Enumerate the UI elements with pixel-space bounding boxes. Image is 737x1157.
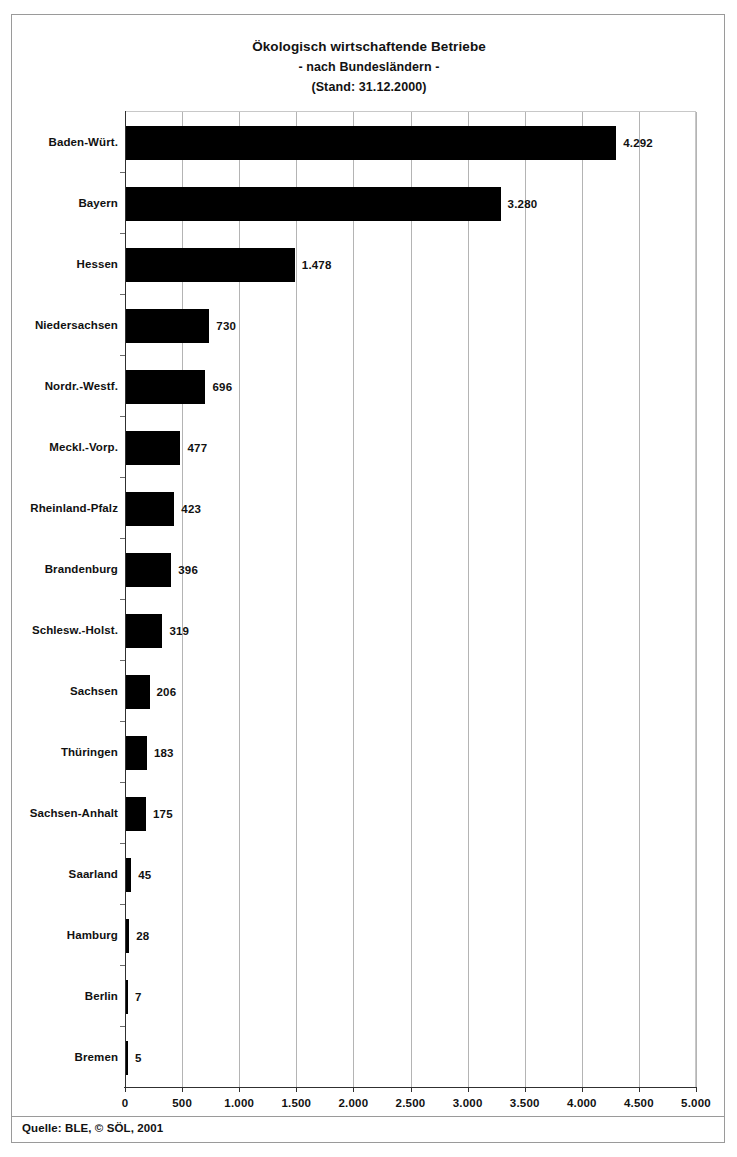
- category-axis-labels: Baden-Würt.BayernHessenNiedersachsenNord…: [12, 111, 118, 1087]
- bar-value-label: 175: [153, 797, 173, 831]
- bar: [126, 614, 162, 648]
- gridline: [296, 112, 297, 1088]
- x-axis-tick-label: 5.000: [681, 1097, 711, 1109]
- bar: [126, 980, 128, 1014]
- bar: [126, 1041, 128, 1075]
- x-axis-tick: [582, 1087, 583, 1092]
- x-axis-tick-label: 2.500: [396, 1097, 426, 1109]
- x-axis-tick: [468, 1087, 469, 1092]
- bar-value-label: 396: [178, 553, 198, 587]
- x-axis-tick: [525, 1087, 526, 1092]
- y-axis-tick: [120, 782, 125, 783]
- bar: [126, 309, 209, 343]
- bar-value-label: 1.478: [302, 248, 332, 282]
- bar: [126, 431, 180, 465]
- gridline: [525, 112, 526, 1088]
- x-axis-tick-label: 4.500: [624, 1097, 654, 1109]
- bar-value-label: 45: [138, 858, 151, 892]
- y-axis-tick: [120, 416, 125, 417]
- y-axis-tick: [120, 355, 125, 356]
- category-label: Nordr.-Westf.: [45, 379, 118, 393]
- x-axis-tick-label: 500: [172, 1097, 192, 1109]
- bar-value-label: 4.292: [623, 126, 653, 160]
- category-label: Hamburg: [67, 928, 118, 942]
- x-axis-tick-label: 2.000: [339, 1097, 369, 1109]
- x-axis-tick: [696, 1087, 697, 1092]
- x-axis-tick-label: 1.500: [281, 1097, 311, 1109]
- plot-area: 4.2923.2801.4787306964774233963192061831…: [125, 111, 696, 1087]
- bar: [126, 492, 174, 526]
- category-label: Brandenburg: [45, 562, 118, 576]
- gridline: [468, 112, 469, 1088]
- bar: [126, 248, 295, 282]
- bar-value-label: 319: [169, 614, 189, 648]
- footer-divider: [12, 1116, 724, 1117]
- category-label: Schlesw.-Holst.: [32, 623, 118, 637]
- category-label: Thüringen: [61, 745, 118, 759]
- chart-date-annotation: (Stand: 31.12.2000): [12, 77, 726, 97]
- y-axis-tick: [120, 538, 125, 539]
- bar-value-label: 730: [216, 309, 236, 343]
- bar-value-label: 696: [212, 370, 232, 404]
- bar: [126, 553, 171, 587]
- bar-value-label: 28: [136, 919, 149, 953]
- gridline: [411, 112, 412, 1088]
- y-axis-spine: [125, 111, 126, 1088]
- bar: [126, 370, 205, 404]
- page-title: Ökologisch wirtschaftende Betriebe: [12, 37, 726, 57]
- bar: [126, 126, 616, 160]
- x-axis-tick-label: 3.000: [453, 1097, 483, 1109]
- x-axis-tick-label: 1.000: [224, 1097, 254, 1109]
- y-axis-tick: [120, 965, 125, 966]
- x-axis-tick: [125, 1087, 126, 1092]
- x-axis-tick: [296, 1087, 297, 1092]
- bar-value-label: 423: [181, 492, 201, 526]
- x-axis-tick: [182, 1087, 183, 1092]
- gridline: [696, 112, 697, 1088]
- bar: [126, 736, 147, 770]
- bar: [126, 797, 146, 831]
- source-note: Quelle: BLE, © SÖL, 2001: [22, 1122, 163, 1134]
- bar-value-label: 477: [187, 431, 207, 465]
- chart-subtitle: - nach Bundesländern -: [12, 57, 726, 77]
- bar: [126, 675, 150, 709]
- category-label: Berlin: [85, 989, 118, 1003]
- bar-value-label: 3.280: [508, 187, 538, 221]
- category-label: Rheinland-Pfalz: [30, 501, 118, 515]
- gridline: [582, 112, 583, 1088]
- bar: [126, 919, 129, 953]
- category-label: Meckl.-Vorp.: [49, 440, 118, 454]
- category-label: Bayern: [78, 196, 118, 210]
- bar-value-label: 7: [135, 980, 142, 1014]
- bar: [126, 187, 501, 221]
- category-label: Saarland: [69, 867, 118, 881]
- category-label: Hessen: [76, 257, 118, 271]
- category-label: Sachsen: [70, 684, 118, 698]
- category-label: Bremen: [75, 1050, 118, 1064]
- y-axis-tick: [120, 1026, 125, 1027]
- y-axis-tick: [120, 660, 125, 661]
- category-label: Sachsen-Anhalt: [30, 806, 118, 820]
- bar: [126, 858, 131, 892]
- gridline: [353, 112, 354, 1088]
- plot-wrapper: 4.2923.2801.4787306964774233963192061831…: [125, 111, 696, 1087]
- category-label: Niedersachsen: [35, 318, 118, 332]
- x-axis-tick: [353, 1087, 354, 1092]
- category-label: Baden-Würt.: [49, 135, 118, 149]
- y-axis-tick: [120, 294, 125, 295]
- x-axis-tick: [411, 1087, 412, 1092]
- y-axis-tick: [120, 599, 125, 600]
- y-axis-tick: [120, 721, 125, 722]
- figure-frame: Ökologisch wirtschaftende Betriebe - nac…: [11, 14, 725, 1143]
- x-axis-tick-label: 0: [122, 1097, 129, 1109]
- chart-title-block: Ökologisch wirtschaftende Betriebe - nac…: [12, 37, 726, 97]
- gridline: [639, 112, 640, 1088]
- y-axis-tick: [120, 172, 125, 173]
- bar-value-label: 183: [154, 736, 174, 770]
- x-axis-tick: [639, 1087, 640, 1092]
- x-axis-tick-label: 4.000: [567, 1097, 597, 1109]
- bar-value-label: 5: [135, 1041, 142, 1075]
- y-axis-tick: [120, 904, 125, 905]
- y-axis-tick: [120, 843, 125, 844]
- x-axis-tick-label: 3.500: [510, 1097, 540, 1109]
